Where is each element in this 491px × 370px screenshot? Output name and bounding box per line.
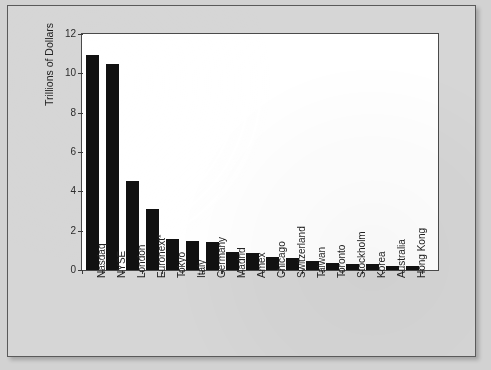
y-tick-label: 10 bbox=[65, 68, 76, 78]
x-axis-category-label: Toronto bbox=[337, 245, 347, 278]
bar-series bbox=[82, 34, 438, 270]
x-axis-category-label: Chicago bbox=[277, 241, 287, 278]
bar bbox=[86, 55, 99, 270]
y-tick-label: 6 bbox=[70, 147, 76, 157]
y-tick-label: 2 bbox=[70, 226, 76, 236]
x-axis-category-label: Euronext* bbox=[157, 234, 167, 278]
y-tick-label: 12 bbox=[65, 29, 76, 39]
y-tick-label: 8 bbox=[70, 108, 76, 118]
y-tick-label: 4 bbox=[70, 186, 76, 196]
x-tick-mark bbox=[82, 270, 83, 274]
bar-chart: Trillions of Dollars 024681012 NasdaqNYS… bbox=[8, 6, 477, 358]
x-axis-category-label: NYSE bbox=[117, 251, 127, 278]
y-axis-title: Trillions of Dollars bbox=[44, 23, 55, 106]
x-axis-category-label: Australia bbox=[397, 239, 407, 278]
bar bbox=[106, 64, 119, 270]
x-axis-category-label: Italy bbox=[197, 260, 207, 278]
x-axis-category-label: London bbox=[137, 245, 147, 278]
scanned-page-sheet: Trillions of Dollars 024681012 NasdaqNYS… bbox=[7, 5, 476, 357]
x-axis-category-label: Switzerland bbox=[297, 226, 307, 278]
x-axis-category-label: Stockholm bbox=[357, 231, 367, 278]
x-axis-category-label: Amex bbox=[257, 252, 267, 278]
x-axis-category-label: Nasdaq bbox=[97, 244, 107, 278]
x-axis-category-label: Madrid bbox=[237, 247, 247, 278]
x-axis-category-label: Taiwan bbox=[317, 247, 327, 278]
y-tick-label: 0 bbox=[70, 265, 76, 275]
x-axis-category-label: Germany bbox=[217, 237, 227, 278]
x-axis-category-label: Korea bbox=[377, 251, 387, 278]
screenshot-page: Trillions of Dollars 024681012 NasdaqNYS… bbox=[0, 0, 491, 370]
plot-area: 024681012 NasdaqNYSELondonEuronext*Tokyo… bbox=[81, 33, 439, 271]
x-axis-category-label: Hong Kong bbox=[417, 228, 427, 278]
x-axis-category-label: Tokyo bbox=[177, 252, 187, 278]
